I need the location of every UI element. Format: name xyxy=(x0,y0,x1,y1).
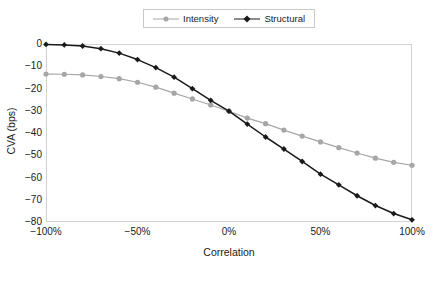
data-point-circle xyxy=(62,72,67,77)
y-tick-label: 0 xyxy=(2,39,46,49)
data-point-circle xyxy=(153,85,158,90)
data-point-circle xyxy=(98,74,103,79)
diamond-marker-icon xyxy=(244,15,251,22)
y-tick-label: −70 xyxy=(2,195,46,205)
data-point-circle xyxy=(281,128,286,133)
data-point-circle xyxy=(117,76,122,81)
series-layer xyxy=(43,42,415,223)
data-point-circle xyxy=(336,145,341,150)
x-tick-label: 0% xyxy=(222,227,236,237)
legend-swatch-structural xyxy=(234,14,260,24)
legend-swatch-intensity xyxy=(153,14,179,24)
data-point-diamond xyxy=(61,42,67,48)
chart-figure: Intensity Structural 0−10−20−30−40−50−60… xyxy=(0,0,434,283)
data-point-circle xyxy=(318,139,323,144)
data-point-circle xyxy=(80,72,85,77)
x-axis-title: Correlation xyxy=(46,246,412,258)
plot-area xyxy=(46,44,412,222)
data-point-circle xyxy=(172,91,177,96)
data-point-circle xyxy=(245,115,250,120)
y-axis-title: CVA (bps) xyxy=(5,86,17,176)
data-point-diamond xyxy=(135,57,141,63)
x-tick-label: 100% xyxy=(399,227,425,237)
data-point-circle xyxy=(391,160,396,165)
data-point-circle xyxy=(135,80,140,85)
x-tick-label: 50% xyxy=(310,227,330,237)
data-point-diamond xyxy=(409,217,415,223)
legend-entry-intensity: Intensity xyxy=(153,14,218,24)
series-intensity xyxy=(43,71,414,167)
circle-marker-icon xyxy=(164,16,169,21)
data-point-circle xyxy=(373,156,378,161)
x-tick-label: −100% xyxy=(30,227,61,237)
data-point-circle xyxy=(300,134,305,139)
data-point-diamond xyxy=(153,65,159,71)
legend-label-intensity: Intensity xyxy=(183,14,218,24)
data-point-circle xyxy=(263,121,268,126)
data-point-diamond xyxy=(373,203,379,209)
legend-entry-structural: Structural xyxy=(234,14,305,24)
data-point-diamond xyxy=(391,211,397,217)
data-point-circle xyxy=(355,150,360,155)
data-point-circle xyxy=(409,163,414,168)
chart-legend: Intensity Structural xyxy=(143,9,315,28)
data-point-circle xyxy=(190,96,195,101)
x-axis-tick-labels: −100%−50%0%50%100% xyxy=(0,227,434,241)
y-tick-label: −10 xyxy=(2,61,46,71)
data-point-diamond xyxy=(80,43,86,49)
legend-label-structural: Structural xyxy=(264,14,305,24)
series-structural xyxy=(43,42,415,223)
data-point-diamond xyxy=(116,50,122,56)
x-tick-label: −50% xyxy=(125,227,151,237)
data-point-diamond xyxy=(98,46,104,52)
